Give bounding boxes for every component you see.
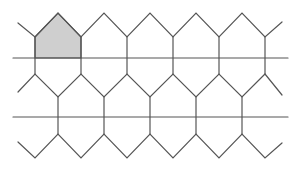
middle-verticals <box>58 97 242 134</box>
tessellation-diagram <box>0 0 298 173</box>
shaded-pentagon <box>35 13 81 58</box>
middle-zigzag <box>18 74 282 97</box>
bottom-zigzag <box>18 134 282 158</box>
